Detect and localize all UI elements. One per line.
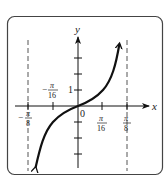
svg-text:−: − <box>42 84 47 94</box>
svg-text:16: 16 <box>48 91 56 100</box>
origin-label: 0 <box>80 108 85 119</box>
x-axis-label: x <box>151 100 157 112</box>
svg-text:16: 16 <box>97 124 105 133</box>
tangent-graph: x y 0 1 − π 16 − π 8 π 16 π 8 <box>0 0 167 178</box>
svg-text:8: 8 <box>124 124 128 133</box>
svg-text:−: − <box>18 112 23 122</box>
y-axis-label: y <box>74 23 80 35</box>
plot-frame <box>8 17 163 175</box>
y-tick-label-1: 1 <box>68 84 73 95</box>
svg-text:8: 8 <box>26 119 30 128</box>
